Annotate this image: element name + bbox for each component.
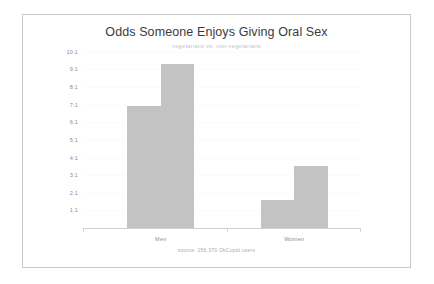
y-axis-tick-label: 5:1 xyxy=(70,137,78,143)
y-axis-tick-label: 7:1 xyxy=(70,102,78,108)
bar xyxy=(294,166,328,228)
chart-frame: Odds Someone Enjoys Giving Oral Sex vege… xyxy=(22,14,411,268)
y-axis-tick-label: 8:1 xyxy=(70,84,78,90)
chart-title: Odds Someone Enjoys Giving Oral Sex xyxy=(23,25,410,39)
y-axis-tick-label: 6:1 xyxy=(70,119,78,125)
x-axis-tick xyxy=(227,229,228,232)
gridline xyxy=(83,158,361,159)
bar xyxy=(261,200,295,228)
y-axis-tick-label: 2:1 xyxy=(70,190,78,196)
y-axis-tick-label: 10:1 xyxy=(66,49,78,55)
x-axis-category-label: Men xyxy=(155,236,166,242)
y-axis-tick-label: 4:1 xyxy=(70,155,78,161)
chart-container: Odds Someone Enjoys Giving Oral Sex vege… xyxy=(23,15,410,267)
x-axis-line xyxy=(83,228,361,229)
gridline xyxy=(83,69,361,70)
source-note: source: 256,370 OkCupid users xyxy=(23,247,410,253)
x-axis-tick xyxy=(360,229,361,232)
gridline xyxy=(83,105,361,106)
bar xyxy=(161,64,195,228)
y-axis-tick-label: 3:1 xyxy=(70,172,78,178)
bar xyxy=(127,106,161,228)
x-axis-category-label: Women xyxy=(284,236,304,242)
y-axis-tick-label: 9:1 xyxy=(70,66,78,72)
y-axis-tick-label: 1:1 xyxy=(70,207,78,213)
gridline xyxy=(83,122,361,123)
x-axis-tick xyxy=(83,229,84,232)
gridline xyxy=(83,87,361,88)
gridline xyxy=(83,140,361,141)
gridline xyxy=(83,52,361,53)
plot-area: 10:19:18:17:16:15:14:13:12:11:1 MenWomen xyxy=(83,43,361,229)
